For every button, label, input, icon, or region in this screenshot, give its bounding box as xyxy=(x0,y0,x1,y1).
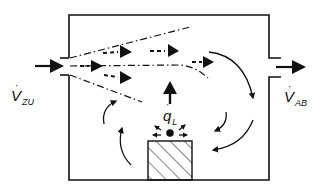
ventilation-diagram xyxy=(0,0,316,195)
circulation-arrow-left-top xyxy=(104,101,117,124)
heat-load-label-dot: · xyxy=(166,100,169,110)
circulation-arrow-right-top xyxy=(209,52,253,98)
supply-air-jet xyxy=(70,27,208,102)
outflow-label: · VAB xyxy=(284,89,307,108)
inflow-label-dot: · xyxy=(15,81,18,91)
outflow-label-subscript: AB xyxy=(295,98,307,108)
circulation-arrow-right-mid xyxy=(215,112,226,131)
jet-lower-boundary xyxy=(70,75,142,102)
heat-source-point xyxy=(166,129,174,137)
inflow-label: · VZU xyxy=(11,88,34,107)
inflow-arrow xyxy=(35,59,64,73)
circulation-arrow-left-low xyxy=(120,128,131,165)
heat-load-label: · qL xyxy=(163,108,177,127)
heat-load-label-subscript: L xyxy=(172,117,177,127)
jet-centerline xyxy=(70,65,208,78)
heat-source-block xyxy=(148,141,192,180)
circulation-arrow-right-low xyxy=(213,120,253,150)
inflow-label-subscript: ZU xyxy=(22,97,34,107)
outflow-arrow xyxy=(276,60,306,74)
outflow-label-dot: · xyxy=(288,82,291,92)
